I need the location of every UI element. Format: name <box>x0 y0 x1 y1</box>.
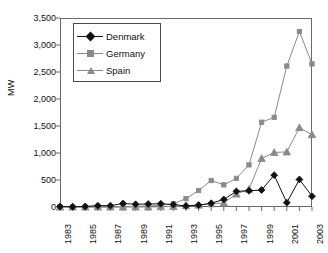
legend-item-denmark: Denmark <box>77 28 157 45</box>
data-point-marker <box>258 155 265 162</box>
series-denmark <box>57 172 316 210</box>
x-tick-label: 1991 <box>165 224 174 244</box>
data-point-marker <box>196 188 200 192</box>
x-tick-label: 1993 <box>190 224 199 244</box>
data-point-marker <box>184 196 188 200</box>
data-point-marker <box>310 62 314 66</box>
legend-item-spain: Spain <box>77 62 157 79</box>
x-tick-label: 1999 <box>266 224 275 244</box>
legend-label: Denmark <box>106 31 145 42</box>
x-axis-tick-labels: 1983198519871989199119931995199719992001… <box>60 210 312 253</box>
x-tick-label: 1989 <box>140 224 149 244</box>
legend-swatch-diamond-icon <box>77 31 103 42</box>
legend-label: Spain <box>106 65 130 76</box>
data-point-marker <box>297 29 301 33</box>
data-point-marker <box>283 199 290 206</box>
data-point-marker <box>209 178 213 182</box>
x-tick-label: 1995 <box>215 224 224 244</box>
data-point-marker <box>296 124 303 131</box>
legend-swatch-square-icon <box>77 48 103 59</box>
wind-capacity-line-chart: MW 05001,0001,5002,0002,5003,0003,500 19… <box>0 0 328 253</box>
data-point-marker <box>259 120 263 124</box>
data-point-marker <box>247 163 251 167</box>
data-point-marker <box>233 188 240 195</box>
data-point-marker <box>308 131 315 138</box>
data-point-marker <box>246 187 253 194</box>
x-tick-label: 2001 <box>291 224 300 244</box>
chart-legend: Denmark Germany Spain <box>73 23 161 82</box>
x-tick-label: 1997 <box>240 224 249 244</box>
legend-swatch-triangle-icon <box>77 65 103 76</box>
legend-label: Germany <box>106 48 145 59</box>
legend-item-germany: Germany <box>77 45 157 62</box>
data-point-marker <box>272 115 276 119</box>
x-tick-label: 1985 <box>89 224 98 244</box>
x-tick-label: 1983 <box>64 224 73 244</box>
series-line <box>60 128 312 207</box>
data-point-marker <box>285 64 289 68</box>
data-point-marker <box>234 176 238 180</box>
x-tick-label: 2003 <box>316 224 325 244</box>
data-point-marker <box>222 183 226 187</box>
x-tick-label: 1987 <box>114 224 123 244</box>
